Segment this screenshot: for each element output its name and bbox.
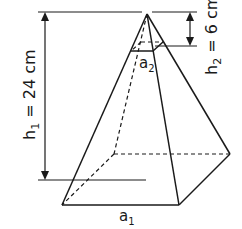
base-right	[179, 154, 230, 205]
edge-back-hidden	[114, 14, 147, 154]
pyramid-diagram: h1 = 24 cm h2 = 6 cm a2 a1	[0, 0, 242, 229]
h2-arrow-bottom-icon	[186, 37, 194, 46]
h1-arrow-bottom-icon	[41, 171, 49, 180]
h1-arrow-top-icon	[41, 12, 49, 21]
h1-label: h1 = 24 cm	[20, 49, 42, 140]
edge-front-left	[62, 14, 147, 205]
h2-label: h2 = 6 cm	[202, 0, 224, 75]
a1-label: a1	[119, 207, 135, 227]
a2-label: a2	[139, 54, 155, 74]
h2-arrow-top-icon	[186, 12, 194, 21]
